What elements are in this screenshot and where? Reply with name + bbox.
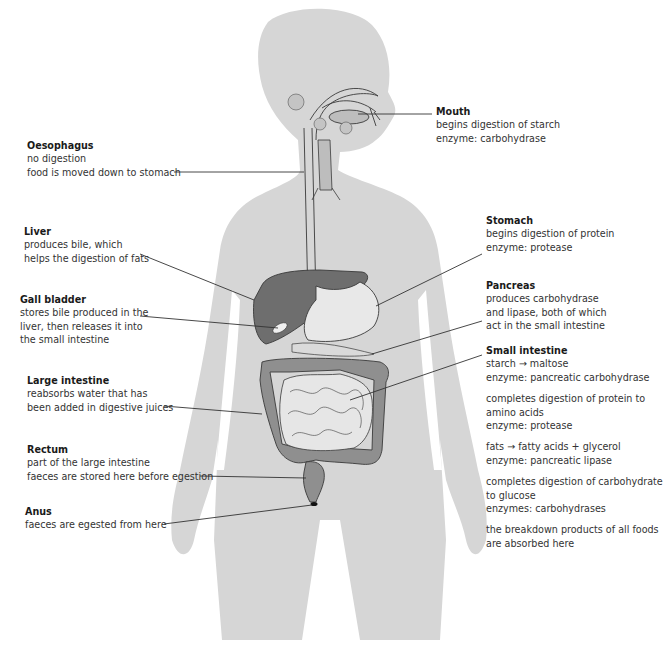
label-pancreas: Pancreas produces carbohydrase and lipas… (486, 279, 607, 333)
label-gall-bladder: Gall bladder stores bile produced in the… (20, 293, 148, 347)
label-oesophagus-line: food is moved down to stomach (27, 166, 181, 179)
label-small-intestine-line: completes digestion of protein to (486, 392, 663, 405)
label-pancreas-line: act in the small intestine (486, 319, 607, 332)
label-oesophagus-title: Oesophagus (27, 139, 181, 152)
label-mouth-line: enzyme: carbohydrase (436, 132, 560, 145)
label-pancreas-line: produces carbohydrase (486, 292, 607, 305)
label-mouth: Mouth begins digestion of starch enzyme:… (436, 105, 560, 145)
label-anus: Anus faeces are egested from here (25, 505, 167, 532)
label-stomach-title: Stomach (486, 214, 614, 227)
label-large-intestine: Large intestine reabsorbs water that has… (27, 374, 173, 414)
label-rectum-title: Rectum (27, 443, 213, 456)
label-large-intestine-line: been added in digestive juices (27, 401, 173, 414)
label-small-intestine-line: to glucose (486, 489, 663, 502)
label-small-intestine-line: starch → maltose (486, 357, 663, 370)
label-liver-line: produces bile, which (24, 238, 149, 251)
label-small-intestine-line: enzymes: carbohydrases (486, 502, 663, 515)
label-large-intestine-line: reabsorbs water that has (27, 387, 173, 400)
label-small-intestine-line: enzyme: protease (486, 419, 663, 432)
label-gall-bladder-line: stores bile produced in the (20, 306, 148, 319)
small-intestine (280, 374, 373, 451)
label-mouth-line: begins digestion of starch (436, 118, 560, 131)
label-rectum-line: faeces are stored here before egestion (27, 470, 213, 483)
label-small-intestine-line: are absorbed here (486, 537, 663, 550)
label-anus-line: faeces are egested from here (25, 518, 167, 531)
label-rectum: Rectum part of the large intestine faece… (27, 443, 213, 483)
label-liver: Liver produces bile, which helps the dig… (24, 225, 149, 265)
label-large-intestine-title: Large intestine (27, 374, 173, 387)
label-stomach-line: enzyme: protease (486, 241, 614, 254)
label-gall-bladder-line: liver, then releases it into (20, 320, 148, 333)
label-small-intestine: Small intestine starch → maltose enzyme:… (486, 344, 663, 550)
label-gall-bladder-title: Gall bladder (20, 293, 148, 306)
label-liver-title: Liver (24, 225, 149, 238)
label-stomach: Stomach begins digestion of protein enzy… (486, 214, 614, 254)
label-small-intestine-line: the breakdown products of all foods (486, 523, 663, 536)
label-rectum-line: part of the large intestine (27, 456, 213, 469)
label-small-intestine-line: enzyme: pancreatic carbohydrase (486, 371, 663, 384)
label-small-intestine-line: completes digestion of carbohydrate (486, 475, 663, 488)
label-small-intestine-line: fats → fatty acids + glycerol (486, 440, 663, 453)
label-oesophagus: Oesophagus no digestion food is moved do… (27, 139, 181, 179)
label-pancreas-title: Pancreas (486, 279, 607, 292)
label-mouth-title: Mouth (436, 105, 560, 118)
label-stomach-line: begins digestion of protein (486, 227, 614, 240)
label-liver-line: helps the digestion of fats (24, 252, 149, 265)
label-small-intestine-line: enzyme: pancreatic lipase (486, 454, 663, 467)
label-pancreas-line: and lipase, both of which (486, 306, 607, 319)
label-oesophagus-line: no digestion (27, 152, 181, 165)
label-small-intestine-line: amino acids (486, 406, 663, 419)
label-anus-title: Anus (25, 505, 167, 518)
label-small-intestine-title: Small intestine (486, 344, 663, 357)
label-gall-bladder-line: the small intestine (20, 333, 148, 346)
